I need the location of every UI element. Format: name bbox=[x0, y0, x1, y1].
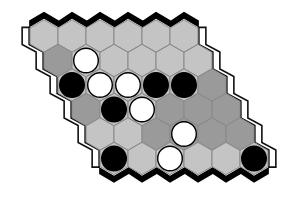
black-stone bbox=[102, 146, 127, 171]
white-stone bbox=[172, 122, 197, 147]
black-stone bbox=[144, 73, 169, 98]
black-stone bbox=[60, 73, 85, 98]
black-stone bbox=[102, 97, 127, 122]
white-stone bbox=[88, 73, 113, 98]
white-stone bbox=[158, 146, 183, 171]
white-stone bbox=[74, 48, 99, 73]
black-stone bbox=[242, 146, 267, 171]
hex-cells bbox=[30, 20, 268, 175]
hex-board bbox=[0, 0, 284, 201]
black-edge-top bbox=[29, 12, 199, 28]
black-stone bbox=[172, 73, 197, 98]
black-edge-bottom bbox=[99, 167, 269, 183]
white-stone bbox=[116, 73, 141, 98]
white-stone bbox=[130, 97, 155, 122]
